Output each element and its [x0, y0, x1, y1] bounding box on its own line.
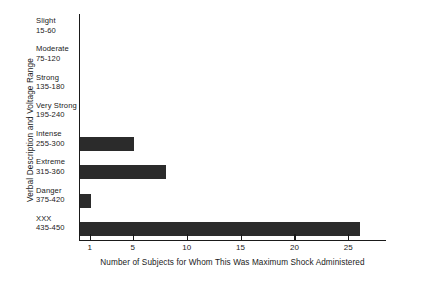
category-label-range: 435-450 [36, 223, 84, 233]
bar [80, 137, 134, 151]
category-label: Extreme315-360 [36, 157, 84, 176]
bar [80, 165, 166, 179]
x-axis-tick [241, 234, 242, 240]
category-label-range: 195-240 [36, 110, 84, 120]
category-label-range: 135-180 [36, 82, 84, 92]
bar-chart: Verbal Description and Voltage Range Sli… [0, 0, 431, 283]
category-label-name: Moderate [36, 44, 84, 54]
category-label-name: XXX [36, 214, 84, 224]
category-label-range: 315-360 [36, 167, 84, 177]
category-label-name: Danger [36, 186, 84, 196]
x-axis-tick-label: 20 [279, 243, 309, 252]
x-axis-tick-label: 5 [118, 243, 148, 252]
x-axis-tick [90, 234, 91, 240]
bar [80, 222, 360, 236]
x-axis-tick [187, 234, 188, 240]
category-label-list: Slight15-60Moderate75-120Strong135-180Ve… [36, 14, 79, 240]
category-label: Very Strong195-240 [36, 101, 84, 120]
category-label: Moderate75-120 [36, 44, 84, 63]
category-label-name: Intense [36, 129, 84, 139]
category-label-name: Strong [36, 73, 84, 83]
category-label-name: Slight [36, 16, 84, 26]
category-label-range: 15-60 [36, 26, 84, 36]
x-axis-tick [294, 234, 295, 240]
category-label: Danger375-420 [36, 186, 84, 205]
category-label-range: 255-300 [36, 139, 84, 149]
x-axis-tick-label: 25 [333, 243, 363, 252]
x-axis-tick [348, 234, 349, 240]
category-label: Slight15-60 [36, 16, 84, 35]
bar [80, 194, 91, 208]
x-axis-tick-label: 15 [226, 243, 256, 252]
category-label-name: Extreme [36, 157, 84, 167]
category-label-range: 375-420 [36, 195, 84, 205]
x-axis-title: Number of Subjects for Whom This Was Max… [79, 258, 386, 267]
x-axis-tick [133, 234, 134, 240]
x-axis-tick-label: 1 [75, 243, 105, 252]
x-axis-tick-label: 10 [172, 243, 202, 252]
category-label-range: 75-120 [36, 54, 84, 64]
x-axis-line [79, 240, 386, 241]
plot-area [79, 14, 386, 240]
category-label-name: Very Strong [36, 101, 84, 111]
category-label: Strong135-180 [36, 73, 84, 92]
category-label: Intense255-300 [36, 129, 84, 148]
category-label: XXX435-450 [36, 214, 84, 233]
